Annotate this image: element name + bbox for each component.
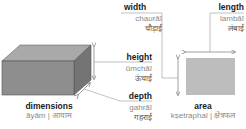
height-label: height ūmchāī ऊंचाई	[100, 52, 152, 84]
depth-transliteration: gahrāī	[100, 103, 152, 113]
area-label: area kṣetraphal | क्षेत्रफल	[160, 101, 246, 121]
width-label: width chaurāī चौड़ाई	[124, 2, 162, 34]
width-transliteration: chaurāī	[124, 14, 162, 24]
depth-hindi: गहराई	[100, 113, 152, 123]
dimensions-english: dimensions	[10, 101, 88, 111]
area-translation: kṣetraphal | क्षेत्रफल	[160, 111, 246, 121]
dimensions-label: dimensions āyām | आयाम	[10, 101, 88, 121]
dimensions-translation: āyām | आयाम	[10, 111, 88, 121]
area-english: area	[160, 101, 246, 111]
area-rectangle	[186, 58, 235, 95]
width-english: width	[124, 2, 162, 12]
depth-label: depth gahrāī गहराई	[100, 91, 152, 123]
depth-english: depth	[100, 91, 152, 101]
length-label: length lambāī लंबाई	[210, 2, 244, 34]
length-hindi: लंबाई	[210, 24, 244, 34]
length-english: length	[210, 2, 244, 12]
height-english: height	[100, 52, 152, 62]
height-transliteration: ūmchāī	[100, 64, 152, 74]
cuboid-shape	[2, 45, 91, 95]
length-transliteration: lambāī	[210, 14, 244, 24]
height-hindi: ऊंचाई	[100, 74, 152, 84]
width-hindi: चौड़ाई	[124, 24, 162, 34]
